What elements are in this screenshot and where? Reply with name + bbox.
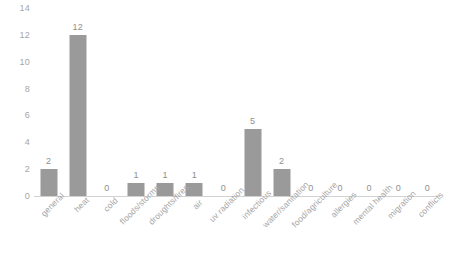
bar-value-label: 2 — [46, 156, 51, 166]
y-axis-tick-label: 4 — [25, 137, 30, 147]
bar-slot: 2 — [34, 8, 63, 196]
bar[interactable] — [273, 169, 290, 196]
x-axis-tick-label: heat — [72, 195, 91, 214]
x-axis-label-slot: uv radiation — [209, 199, 238, 267]
bar-value-label: 1 — [163, 170, 168, 180]
x-axis-label-slot: general — [34, 199, 63, 267]
y-axis-tick-label: 12 — [20, 30, 30, 40]
bar-slot: 0 — [413, 8, 442, 196]
bar-value-label: 5 — [250, 116, 255, 126]
x-axis-label-slot: heat — [63, 199, 92, 267]
bar-value-label: 0 — [337, 183, 342, 193]
x-axis-label-slot: mental health — [355, 199, 384, 267]
y-axis-tick-label: 14 — [20, 3, 30, 13]
bar-slot: 1 — [121, 8, 150, 196]
bar-value-label: 1 — [133, 170, 138, 180]
bar[interactable] — [244, 129, 261, 196]
y-axis: 02468101214 — [0, 0, 38, 267]
bar[interactable] — [40, 169, 57, 196]
y-axis-tick-label: 6 — [25, 110, 30, 120]
bar-value-label: 0 — [221, 183, 226, 193]
bar-value-label: 12 — [72, 22, 82, 32]
bar-value-label: 0 — [104, 183, 109, 193]
x-axis-tick-label: air — [191, 198, 205, 212]
x-axis-label-slot: cold — [92, 199, 121, 267]
bar-slot: 0 — [325, 8, 354, 196]
x-axis-label-slot: food/agriculture — [296, 199, 325, 267]
bar-value-label: 0 — [425, 183, 430, 193]
bar-slot: 0 — [355, 8, 384, 196]
bar-slot: 2 — [267, 8, 296, 196]
x-axis-label-slot: floods/storms — [121, 199, 150, 267]
bar-value-label: 1 — [192, 170, 197, 180]
y-axis-tick-label: 10 — [20, 57, 30, 67]
x-axis-tick-label: cold — [101, 195, 119, 213]
x-axis: generalheatcoldfloods/stormsdroughts/fir… — [34, 199, 442, 267]
bar-slot: 5 — [238, 8, 267, 196]
bar-slot: 1 — [151, 8, 180, 196]
bar-slot: 0 — [209, 8, 238, 196]
bar-slot: 0 — [384, 8, 413, 196]
bar-slot: 0 — [92, 8, 121, 196]
bar-slot: 1 — [180, 8, 209, 196]
x-axis-label-slot: air — [180, 199, 209, 267]
plot-area: 212011105200000 — [34, 8, 442, 196]
x-axis-label-slot: conflicts — [413, 199, 442, 267]
x-axis-label-slot: water/sanitation — [267, 199, 296, 267]
bar-chart: 02468101214 212011105200000 generalheatc… — [0, 0, 456, 267]
x-axis-label-slot: allergies — [325, 199, 354, 267]
x-axis-label-slot: infectious — [238, 199, 267, 267]
bar-value-label: 0 — [367, 183, 372, 193]
bar-slot: 12 — [63, 8, 92, 196]
y-axis-tick-label: 8 — [25, 84, 30, 94]
bar-value-label: 0 — [396, 183, 401, 193]
bar-value-label: 2 — [279, 156, 284, 166]
x-axis-label-slot: migration — [384, 199, 413, 267]
y-axis-tick-label: 2 — [25, 164, 30, 174]
y-axis-tick-label: 0 — [25, 191, 30, 201]
bar[interactable] — [69, 35, 86, 196]
x-axis-label-slot: droughts/fires — [151, 199, 180, 267]
bar-slot: 0 — [296, 8, 325, 196]
